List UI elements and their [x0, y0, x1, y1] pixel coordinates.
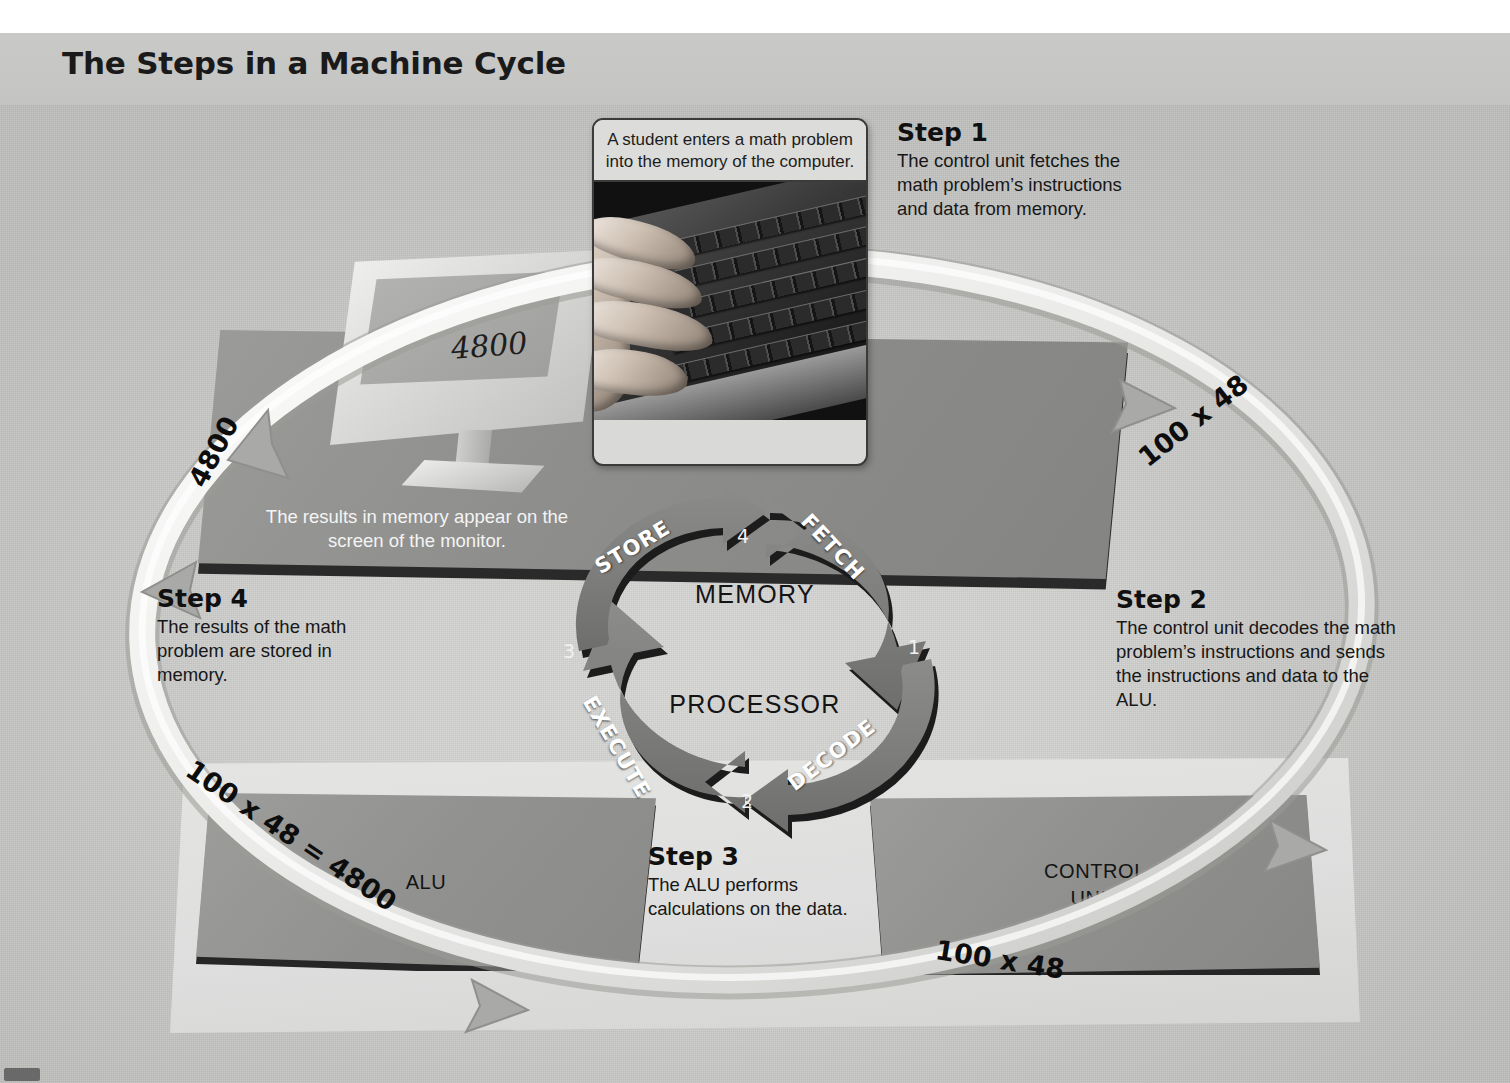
step-4-heading: Step 4 — [157, 584, 397, 613]
monitor: 4800 — [330, 250, 605, 500]
step-1-heading: Step 1 — [897, 118, 1127, 147]
keyboard-photo-card: A student enters a math problem into the… — [592, 118, 868, 466]
monitor-base — [402, 460, 545, 493]
step-3-callout: Step 3 The ALU performs calculations on … — [648, 842, 888, 921]
step-3-heading: Step 3 — [648, 842, 888, 871]
processor-label: PROCESSOR — [600, 690, 910, 719]
keyboard-photo-caption: A student enters a math problem into the… — [594, 120, 866, 182]
memory-label: MEMORY — [600, 580, 910, 609]
step-2-callout: Step 2 The control unit decodes the math… — [1116, 585, 1406, 712]
machine-cycle-arrow-ring: STORE FETCH DECODE EXECUTE 4 1 2 3 — [545, 495, 965, 850]
step-3-body: The ALU performs calculations on the dat… — [648, 873, 888, 921]
arrow-number-execute: 3 — [563, 640, 575, 662]
step-1-callout: Step 1 The control unit fetches the math… — [897, 118, 1127, 221]
step-4-callout: Step 4 The results of the math problem a… — [157, 584, 397, 687]
step-4-body: The results of the math problem are stor… — [157, 615, 397, 687]
arrow-number-store: 4 — [737, 525, 749, 547]
hands-typing-on-keyboard-photo — [594, 182, 866, 420]
step-2-body: The control unit decodes the math proble… — [1116, 616, 1406, 712]
arrow-number-fetch: 1 — [908, 636, 920, 658]
monitor-screen — [360, 271, 564, 384]
control-unit-label-line1: CONTROL — [1044, 858, 1146, 885]
arrow-number-decode: 2 — [741, 790, 753, 812]
control-unit-label-line2: UNIT — [1070, 885, 1119, 912]
step-2-heading: Step 2 — [1116, 585, 1406, 614]
monitor-caption: The results in memory appear on the scre… — [252, 505, 582, 553]
page-title: The Steps in a Machine Cycle — [62, 45, 566, 81]
step-1-body: The control unit fetches the math proble… — [897, 149, 1127, 221]
page-corner-mark — [4, 1068, 40, 1081]
diagram-canvas: The Steps in a Machine Cycle 4800 The re… — [0, 0, 1510, 1083]
monitor-screen-value: 4800 — [450, 325, 529, 366]
